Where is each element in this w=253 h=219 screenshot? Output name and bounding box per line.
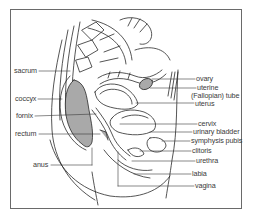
ovary-shape [137,76,154,92]
label-fornix: fornix [16,112,33,120]
label-ovary: ovary [196,75,213,83]
pubis-shape [147,137,166,152]
pelvic-anatomy-diagram: sacrum coccyx fornix rectum anus ovary u… [0,0,253,219]
leader-lines-right [118,79,197,186]
label-urinary-bladder: urinary bladder [193,128,239,136]
label-vagina: vagina [195,182,216,190]
rectum-shape [65,80,92,147]
label-sacrum: sacrum [14,67,37,75]
label-anus: anus [33,161,48,169]
label-urethra: urethra [196,157,218,165]
uterus-shape [95,84,138,109]
vertebra [82,22,104,40]
label-coccyx: coccyx [15,95,36,103]
bladder-shape [110,110,156,135]
label-symphysis-pubis: symphysis pubis [191,137,242,145]
label-labia: labia [192,170,207,178]
label-uterus: uterus [195,100,214,108]
label-clitoris: clitoris [192,147,212,155]
label-rectum: rectum [15,130,36,138]
